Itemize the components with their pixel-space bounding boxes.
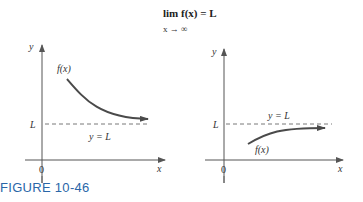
right-origin-label: 0 (221, 164, 226, 175)
right-graph: y x 0 L y = L f(x) (205, 46, 343, 183)
figure-graphs: y x 0 L y = L f(x) y x 0 L y = L f(x) (0, 0, 363, 202)
left-graph: y x 0 L y = L f(x) (25, 41, 165, 183)
right-L-label: L (212, 119, 219, 130)
left-origin-label: 0 (39, 164, 44, 175)
left-y-label: y (28, 41, 34, 52)
figure-caption: FIGURE 10-46 (0, 180, 90, 195)
left-L-label: L (29, 119, 36, 130)
left-curve (67, 79, 148, 119)
left-x-label: x (156, 163, 162, 174)
right-asymptote-label: y = L (267, 110, 290, 121)
right-curve (248, 128, 325, 144)
left-curve-label: f(x) (57, 63, 72, 75)
right-x-label: x (337, 163, 343, 174)
left-asymptote-label: y = L (88, 131, 111, 142)
right-curve-label: f(x) (255, 144, 270, 156)
right-y-label: y (211, 46, 217, 57)
